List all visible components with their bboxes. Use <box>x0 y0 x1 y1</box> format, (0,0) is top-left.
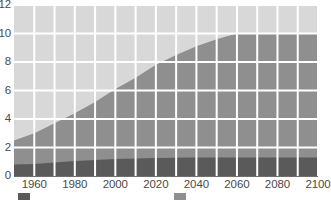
y-tick-label: 6 <box>0 85 11 97</box>
y-tick-label: 0 <box>0 170 11 182</box>
plot-area <box>14 5 318 176</box>
legend-swatch <box>18 193 30 200</box>
x-tick-label: 2000 <box>103 179 128 191</box>
x-tick-label: 1980 <box>62 179 87 191</box>
x-tick-label: 2080 <box>265 179 290 191</box>
x-tick-label: 2100 <box>305 179 330 191</box>
x-tick-label: 2040 <box>184 179 209 191</box>
legend-entry[interactable] <box>18 193 34 200</box>
legend-entry[interactable] <box>174 193 190 200</box>
series-layer <box>14 5 318 176</box>
y-tick-label: 8 <box>0 56 11 68</box>
legend <box>0 193 328 200</box>
x-axis-line <box>14 176 318 177</box>
y-tick-label: 2 <box>0 142 11 154</box>
y-tick-label: 12 <box>0 0 11 11</box>
x-tick-label: 1960 <box>22 179 47 191</box>
area-band-2 <box>14 34 318 177</box>
x-tick-label: 2020 <box>143 179 168 191</box>
legend-swatch <box>174 193 186 200</box>
y-tick-label: 4 <box>0 113 11 125</box>
x-tick-label: 2060 <box>224 179 249 191</box>
y-tick-label: 10 <box>0 28 11 40</box>
